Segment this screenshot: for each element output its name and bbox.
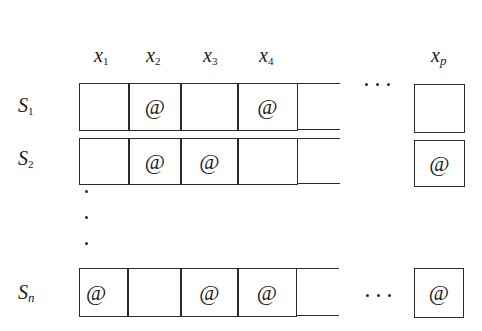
cell-s2-xp: @ (414, 140, 465, 187)
row-s2-bottom-line (297, 183, 340, 184)
row-label-s2: S2 (18, 148, 34, 170)
cell-s2-x2: @ (128, 138, 182, 185)
cell-sn-xp: @ (414, 268, 464, 318)
col-header-x4: x4 (259, 45, 273, 67)
row-s1-bottom-line (297, 129, 340, 130)
cell-s1-x2: @ (128, 83, 182, 131)
row-sn-bottom-line (296, 315, 339, 316)
col-header-xp: xp (431, 45, 446, 67)
row-s1-top-line (297, 83, 340, 84)
cell-sn-x4: @ (237, 268, 297, 317)
row-sn-top-line (296, 268, 339, 269)
cell-s2-x4 (237, 138, 298, 185)
cell-s1-xp (414, 84, 465, 133)
row-label-s1: S1 (18, 95, 34, 117)
col-header-x1: x1 (94, 45, 108, 67)
cell-sn-x1: @ (79, 268, 129, 317)
cell-s2-x1 (79, 138, 130, 185)
row-s2-top-line (297, 138, 340, 139)
col-header-x2: x2 (146, 45, 160, 67)
cell-sn-x3: @ (180, 268, 239, 317)
cell-s1-x1 (79, 83, 130, 131)
cell-s1-x4: @ (237, 83, 298, 131)
col-header-x3: x3 (203, 45, 217, 67)
cell-s2-x3: @ (180, 138, 239, 185)
row-label-sn: Sn (18, 282, 35, 304)
cell-sn-x2 (127, 268, 182, 317)
cell-s1-x3 (180, 83, 239, 131)
